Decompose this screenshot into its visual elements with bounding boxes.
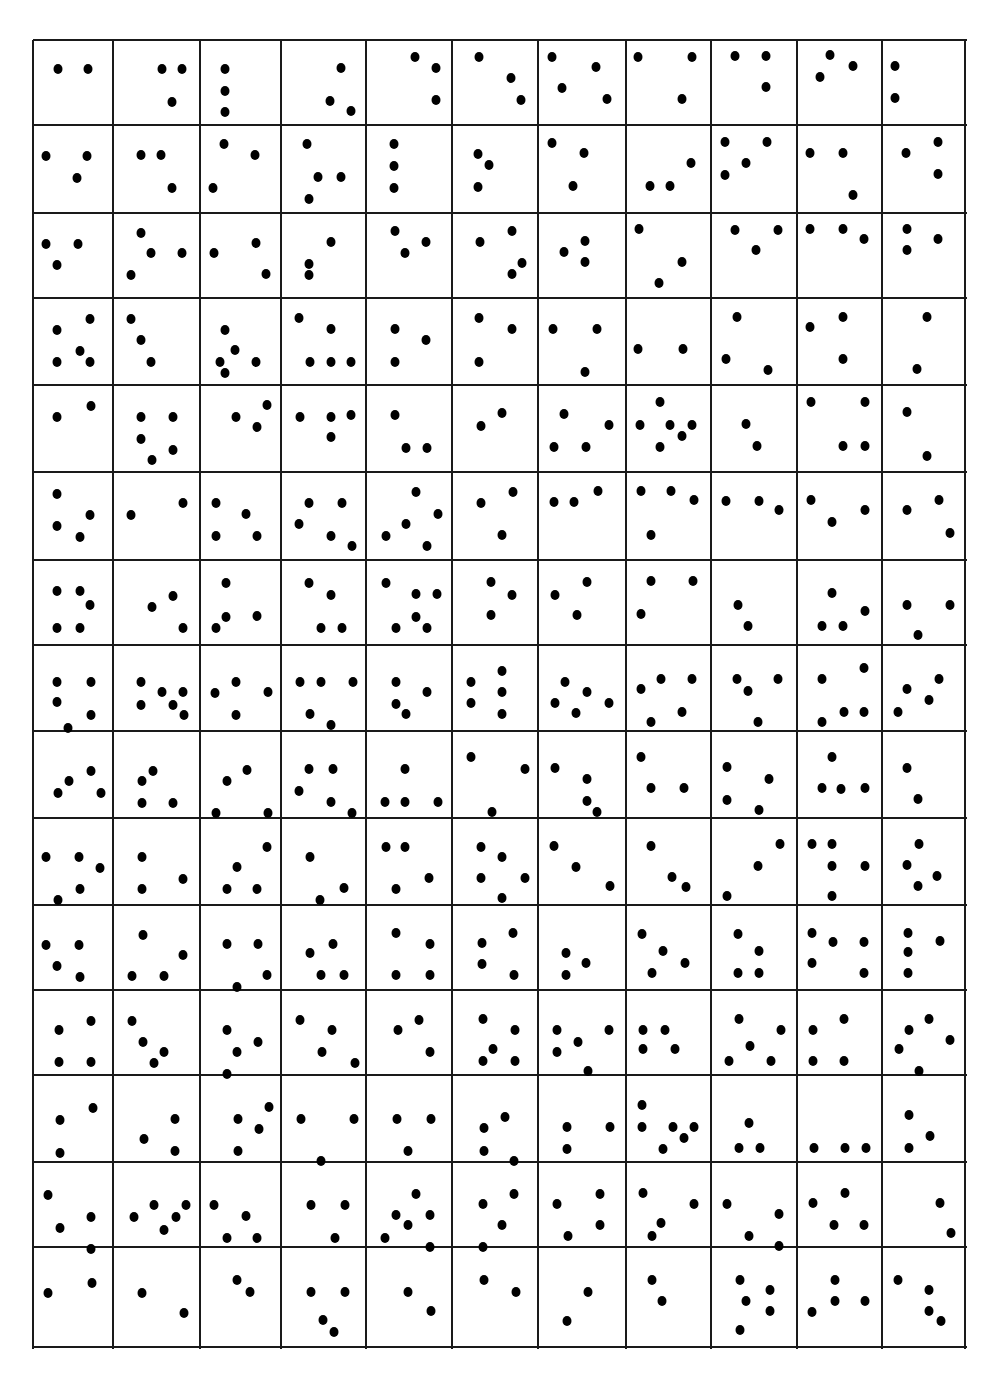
dot xyxy=(326,96,335,106)
dot xyxy=(221,368,230,378)
dot xyxy=(477,842,486,852)
dot xyxy=(347,410,356,420)
dot xyxy=(87,710,96,720)
dot xyxy=(903,860,912,870)
dot xyxy=(637,684,646,694)
dot xyxy=(75,940,84,950)
dot xyxy=(317,970,326,980)
dot-cell xyxy=(452,1162,538,1247)
dot xyxy=(412,612,421,622)
dot-cell xyxy=(113,213,200,298)
dot xyxy=(316,895,325,905)
dot xyxy=(157,150,166,160)
dot xyxy=(508,269,517,279)
dot xyxy=(777,1025,786,1035)
dot xyxy=(467,677,476,687)
dot xyxy=(550,841,559,851)
dot xyxy=(253,422,262,432)
dot-cell xyxy=(452,40,538,125)
dot xyxy=(946,528,955,538)
dot xyxy=(56,1148,65,1158)
dot xyxy=(349,677,358,687)
dot xyxy=(947,1228,956,1238)
dot xyxy=(474,149,483,159)
dot xyxy=(723,795,732,805)
dot xyxy=(722,496,731,506)
dot xyxy=(509,928,518,938)
dot xyxy=(328,1025,337,1035)
dot xyxy=(637,752,646,762)
dot xyxy=(593,807,602,817)
dot xyxy=(647,841,656,851)
dot xyxy=(596,1220,605,1230)
dot xyxy=(255,1124,264,1134)
dot xyxy=(475,313,484,323)
dot-cell xyxy=(452,990,538,1075)
dot xyxy=(211,688,220,698)
dot xyxy=(297,1114,306,1124)
dot xyxy=(350,1114,359,1124)
dot xyxy=(234,1146,243,1156)
dot xyxy=(127,270,136,280)
dot xyxy=(731,51,740,61)
dot xyxy=(914,881,923,891)
dot-cell xyxy=(538,385,626,472)
dot xyxy=(839,621,848,631)
dot xyxy=(478,959,487,969)
dot xyxy=(558,83,567,93)
dot xyxy=(53,677,62,687)
dot-cell xyxy=(200,385,281,472)
dot xyxy=(861,606,870,616)
dot-cell xyxy=(711,1247,797,1347)
dot xyxy=(44,1190,53,1200)
dot xyxy=(831,1296,840,1306)
dot xyxy=(327,590,336,600)
dot xyxy=(426,1047,435,1057)
dot xyxy=(860,937,869,947)
dot-cell xyxy=(452,645,538,731)
dot xyxy=(390,161,399,171)
dot-cell xyxy=(882,40,965,125)
dot-cell xyxy=(200,40,281,125)
dot xyxy=(427,1114,436,1124)
dot xyxy=(934,169,943,179)
dot xyxy=(327,720,336,730)
dot xyxy=(549,324,558,334)
dot xyxy=(905,1143,914,1153)
dot xyxy=(551,763,560,773)
dot xyxy=(485,160,494,170)
dot xyxy=(723,1199,732,1209)
dot-cell xyxy=(626,1075,711,1162)
dot xyxy=(828,839,837,849)
dot xyxy=(307,1287,316,1297)
dot-cell xyxy=(882,645,965,731)
dot xyxy=(137,700,146,710)
dot xyxy=(828,861,837,871)
dot xyxy=(263,400,272,410)
dot xyxy=(347,106,356,116)
dot-cell xyxy=(33,731,113,818)
dot xyxy=(744,621,753,631)
dot xyxy=(903,684,912,694)
dot xyxy=(305,194,314,204)
dot xyxy=(317,1156,326,1166)
dot-cell xyxy=(711,298,797,385)
dot xyxy=(639,1025,648,1035)
dot xyxy=(553,1047,562,1057)
dot xyxy=(480,1146,489,1156)
dot xyxy=(76,346,85,356)
dot xyxy=(592,62,601,72)
dot xyxy=(765,774,774,784)
dot-cell xyxy=(281,1247,366,1347)
dot xyxy=(915,1066,924,1076)
dot-cell xyxy=(281,818,366,905)
dot xyxy=(314,172,323,182)
dot xyxy=(860,1220,869,1230)
dot xyxy=(742,419,751,429)
dot xyxy=(382,578,391,588)
dot xyxy=(755,968,764,978)
dot xyxy=(296,1015,305,1025)
dot-cell xyxy=(33,990,113,1075)
dot xyxy=(53,623,62,633)
dot xyxy=(678,431,687,441)
